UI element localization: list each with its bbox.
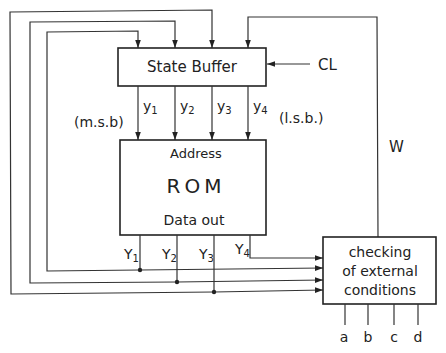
state-bit-y2: y2	[180, 98, 195, 116]
condition-checker-block: checking of external conditions	[323, 237, 436, 304]
rom-output-Y2: Y2	[161, 246, 177, 264]
state-buffer-block: State Buffer	[118, 48, 266, 86]
rom-data-label: Data out	[164, 212, 225, 228]
clock-input: CL	[267, 56, 337, 74]
rom-outputs: Y1 Y2 Y3 Y4	[123, 235, 323, 294]
checker-label-line2: of external	[342, 263, 418, 279]
rom-output-Y3: Y3	[198, 246, 214, 264]
lsb-label: (l.s.b.)	[279, 110, 323, 126]
junction-dot	[212, 290, 216, 294]
junction-dot	[175, 280, 179, 284]
checker-label-line1: checking	[349, 244, 412, 260]
state-lines: y1 y2 y3 y4 (m.s.b) (l.s.b.)	[74, 86, 323, 140]
state-bit-y1: y1	[143, 98, 158, 116]
input-d: d	[414, 329, 423, 345]
junction-dot	[138, 268, 142, 272]
state-buffer-label: State Buffer	[147, 58, 238, 76]
rom-block: Address ROM Data out	[120, 140, 266, 235]
checker-label-line3: conditions	[344, 282, 416, 298]
rom-state-machine-diagram: State Buffer CL y1 y2 y3 y4 (m.s.b) (l.s…	[0, 0, 446, 353]
rom-output-Y4: Y4	[234, 241, 250, 259]
rom-name-label: ROM	[167, 174, 226, 198]
external-inputs: a b c d	[340, 304, 423, 345]
clock-label: CL	[318, 56, 337, 74]
input-c: c	[390, 329, 398, 345]
rom-output-Y1: Y1	[123, 246, 139, 264]
msb-label: (m.s.b)	[74, 114, 124, 130]
state-bit-y3: y3	[217, 98, 232, 116]
input-a: a	[340, 329, 349, 345]
feedback-line-w	[248, 17, 378, 237]
feedback-w-label: W	[389, 138, 404, 156]
state-bit-y4: y4	[253, 98, 268, 116]
input-b: b	[364, 329, 373, 345]
rom-address-label: Address	[170, 146, 222, 161]
